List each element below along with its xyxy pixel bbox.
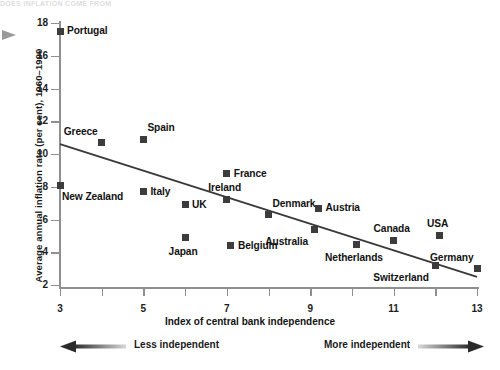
data-point-marker xyxy=(182,234,189,241)
x-tick xyxy=(143,287,144,296)
y-tick xyxy=(51,23,60,24)
data-point-label: Greece xyxy=(64,126,98,137)
data-point-marker xyxy=(98,139,105,146)
y-tick xyxy=(51,89,60,90)
data-point-marker xyxy=(223,196,230,203)
data-point-marker xyxy=(315,205,322,212)
arrow-left-icon xyxy=(60,341,126,353)
y-tick xyxy=(51,220,60,221)
triangle-right-icon xyxy=(2,28,18,42)
y-tick xyxy=(51,285,60,286)
independence-direction-bar: Less independent More independent xyxy=(0,336,500,360)
x-tick xyxy=(185,287,186,296)
data-point-marker xyxy=(223,170,230,177)
data-point-marker xyxy=(311,226,318,233)
y-tick-label: 18 xyxy=(26,18,48,28)
data-point-label: Italy xyxy=(150,186,170,197)
y-tick-label: 2 xyxy=(26,280,48,290)
x-tick xyxy=(435,287,436,296)
x-tick-label: 3 xyxy=(48,303,72,314)
data-point-marker xyxy=(265,211,272,218)
data-point-marker xyxy=(57,28,64,35)
y-tick xyxy=(51,252,60,253)
data-point-label: Canada xyxy=(374,223,410,234)
y-tick-label: 14 xyxy=(26,84,48,94)
data-point-marker xyxy=(353,241,360,248)
data-point-label: Australia xyxy=(265,236,308,247)
data-point-marker xyxy=(432,262,439,269)
data-point-label: Japan xyxy=(169,246,198,257)
data-point-marker xyxy=(390,237,397,244)
data-point-label: New Zealand xyxy=(62,191,123,202)
data-point-marker xyxy=(57,182,64,189)
faint-header-text: DOES INFLATION COME FROM xyxy=(0,0,240,9)
data-point-label: Switzerland xyxy=(373,272,429,283)
data-point-marker xyxy=(436,232,443,239)
y-tick-label: 12 xyxy=(26,116,48,126)
data-point-label: Austria xyxy=(326,202,360,213)
arrow-right-icon xyxy=(418,341,484,353)
x-tick-label: 11 xyxy=(382,303,406,314)
data-point-label: Germany xyxy=(430,252,473,263)
y-axis-label: Average annual inflation rate (per cent)… xyxy=(33,31,44,301)
plot-area: 24681012141618 35791113 PortugalNew Zeal… xyxy=(60,23,477,285)
y-tick xyxy=(51,121,60,122)
x-tick xyxy=(310,287,311,296)
data-point-label: France xyxy=(234,168,267,179)
x-tick xyxy=(269,287,270,296)
x-axis-label: Index of central bank independence xyxy=(0,316,500,327)
x-tick-label: 5 xyxy=(131,303,155,314)
x-tick xyxy=(227,287,228,296)
data-point-marker xyxy=(474,265,481,272)
x-tick-label: 7 xyxy=(215,303,239,314)
data-point-label: USA xyxy=(427,218,448,229)
data-point-marker xyxy=(182,201,189,208)
x-tick xyxy=(60,287,61,296)
data-point-label: Spain xyxy=(147,122,174,133)
y-tick xyxy=(51,154,60,155)
data-point-marker xyxy=(140,136,147,143)
data-point-label: Netherlands xyxy=(325,252,383,263)
less-independent-label: Less independent xyxy=(134,339,219,350)
x-tick xyxy=(102,287,103,296)
x-tick-label: 9 xyxy=(298,303,322,314)
data-point-label: UK xyxy=(192,199,207,210)
y-tick-label: 8 xyxy=(26,182,48,192)
x-tick xyxy=(477,287,478,296)
x-tick-label: 13 xyxy=(465,303,489,314)
data-point-label: Ireland xyxy=(208,182,241,193)
y-tick-label: 6 xyxy=(26,215,48,225)
y-tick-label: 4 xyxy=(26,247,48,257)
y-tick xyxy=(51,56,60,57)
x-tick xyxy=(394,287,395,296)
data-point-label: Denmark xyxy=(273,198,316,209)
y-tick-label: 16 xyxy=(26,51,48,61)
more-independent-label: More independent xyxy=(324,339,410,350)
x-tick xyxy=(352,287,353,296)
data-point-marker xyxy=(140,188,147,195)
y-tick-label: 10 xyxy=(26,149,48,159)
data-point-label: Portugal xyxy=(67,25,108,36)
data-point-marker xyxy=(227,242,234,249)
chart-container: DOES INFLATION COME FROM Average annual … xyxy=(0,0,500,370)
